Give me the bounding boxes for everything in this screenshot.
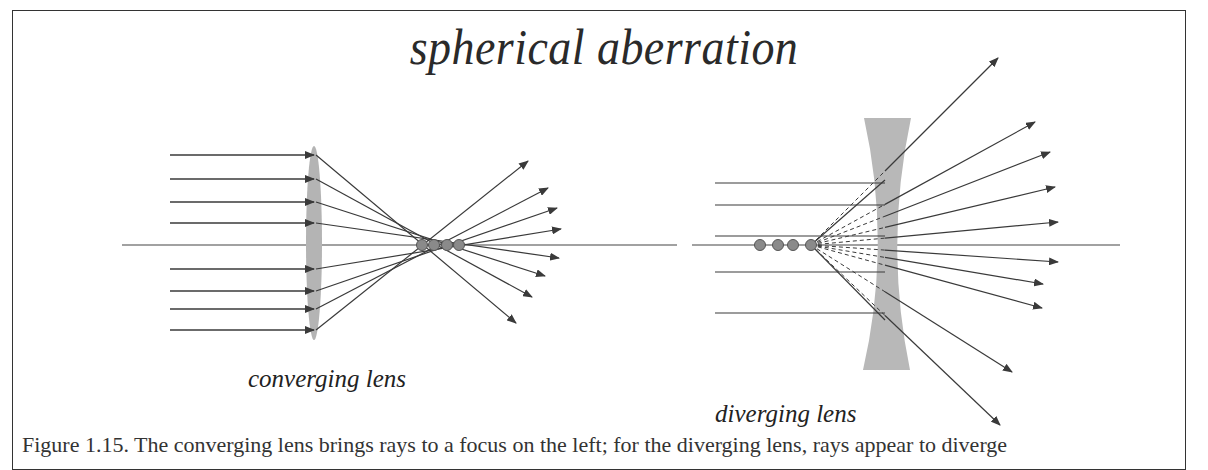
diverged-ray [885, 152, 1050, 216]
virtual-ray-extensions [811, 171, 885, 315]
virtual-focal-point-dot [773, 240, 784, 251]
diverging-lens-shape [863, 118, 911, 370]
virtual-focal-point-dot [788, 240, 799, 251]
virtual-focal-point-dot [806, 240, 817, 251]
diverged-ray [885, 315, 1000, 425]
converging-lens-label: converging lens [248, 365, 406, 393]
diverged-ray [885, 250, 1058, 262]
converging-lens-shape [306, 146, 322, 340]
focal-point-dot [454, 240, 465, 251]
marginal-ray [811, 180, 885, 245]
incoming-rays-left [170, 155, 314, 330]
virtual-focal-point-dot [755, 240, 766, 251]
figure-caption: Figure 1.15. The converging lens brings … [22, 432, 1007, 458]
diverged-ray [885, 58, 998, 171]
virtual-ray [811, 171, 885, 245]
focal-point-dot [429, 240, 440, 251]
diverging-lens-label: diverging lens [715, 400, 856, 428]
focal-point-dot [417, 240, 428, 251]
diverged-ray [885, 265, 1042, 308]
diverged-ray [885, 222, 1058, 238]
focal-point-dot [442, 240, 453, 251]
virtual-ray [811, 245, 885, 250]
diverged-ray [885, 187, 1055, 227]
virtual-ray [811, 216, 885, 245]
virtual-ray [811, 238, 885, 245]
marginal-ray [811, 245, 885, 320]
converging-lens-diagram [122, 146, 677, 340]
virtual-ray [811, 245, 885, 292]
diverging-lens-diagram [692, 58, 1120, 425]
diverged-ray [885, 257, 1043, 284]
refracted-ray [316, 155, 516, 323]
